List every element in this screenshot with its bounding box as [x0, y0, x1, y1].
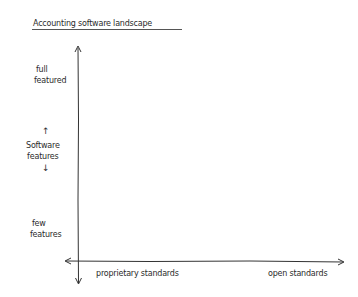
- x-axis-line: [65, 258, 344, 265]
- y-axis-line: [75, 46, 82, 284]
- axes: [0, 0, 358, 297]
